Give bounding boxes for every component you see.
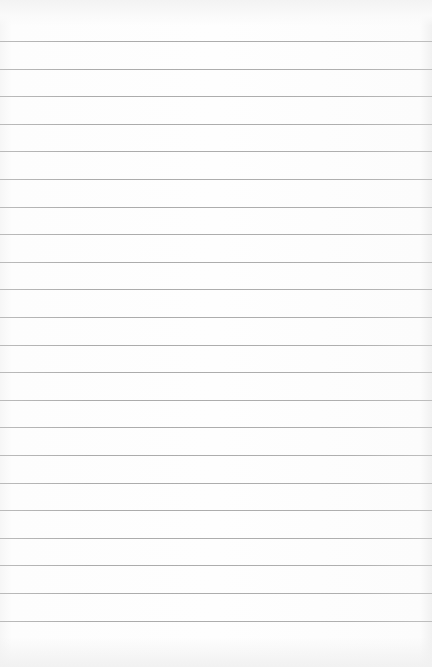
ruled-line <box>0 593 432 594</box>
ruled-line <box>0 207 432 208</box>
ruled-line <box>0 69 432 70</box>
paper-top-edge <box>0 0 432 26</box>
ruled-line <box>0 345 432 346</box>
ruled-line <box>0 372 432 373</box>
ruled-line <box>0 151 432 152</box>
ruled-line <box>0 124 432 125</box>
ruled-line <box>0 400 432 401</box>
ruled-line <box>0 289 432 290</box>
ruled-line <box>0 179 432 180</box>
ruled-line <box>0 538 432 539</box>
ruled-line <box>0 510 432 511</box>
lined-paper-sheet <box>0 0 432 667</box>
ruled-line <box>0 96 432 97</box>
ruled-line <box>0 41 432 42</box>
ruled-line <box>0 317 432 318</box>
ruled-line <box>0 234 432 235</box>
paper-bottom-edge <box>0 637 432 667</box>
ruled-line <box>0 455 432 456</box>
ruled-line <box>0 483 432 484</box>
ruled-line <box>0 427 432 428</box>
ruled-line <box>0 262 432 263</box>
ruled-line <box>0 621 432 622</box>
ruled-line <box>0 565 432 566</box>
